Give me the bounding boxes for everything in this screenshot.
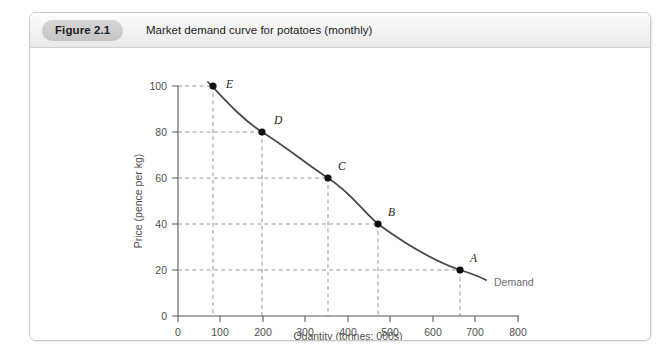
point-label-a: A [469, 252, 478, 264]
point-label-b: B [388, 206, 395, 218]
chart-area: 100 80 60 40 20 0 0 100 200 300 400 500 … [30, 49, 650, 341]
figure-header: Figure 2.1 Market demand curve for potat… [30, 13, 650, 48]
vertical-gridlines [213, 86, 460, 316]
demand-curve-path [208, 82, 486, 280]
x-tick-label-600: 600 [424, 326, 442, 338]
y-tick-label-80: 80 [155, 126, 167, 138]
data-point-d [258, 128, 265, 135]
y-tick-label-20: 20 [155, 264, 167, 276]
x-tick-label-0: 0 [175, 326, 181, 338]
y-tick-label-60: 60 [155, 172, 167, 184]
point-label-c: C [338, 160, 346, 172]
y-tick-label-40: 40 [155, 218, 167, 230]
data-point-c [324, 174, 331, 181]
demand-curve-chart: 100 80 60 40 20 0 0 100 200 300 400 500 … [30, 49, 650, 341]
y-tick-label-100: 100 [149, 80, 167, 92]
demand-curve-label: Demand [494, 276, 534, 288]
x-tick-label-100: 100 [211, 326, 229, 338]
y-axis-title: Price (pence per kg) [132, 154, 144, 249]
y-tick-label-0: 0 [161, 310, 167, 322]
horizontal-gridlines [178, 86, 460, 270]
x-tick-label-700: 700 [466, 326, 484, 338]
point-label-d: D [273, 114, 283, 126]
y-axis-ticks [172, 86, 178, 316]
data-point-e [209, 82, 216, 89]
x-tick-label-800: 800 [509, 326, 527, 338]
x-axis-title: Quantity (tonnes: 000s) [293, 330, 402, 341]
data-point-a [456, 266, 463, 273]
x-axis-ticks [178, 316, 518, 322]
data-point-b [374, 220, 381, 227]
x-tick-label-200: 200 [254, 326, 272, 338]
point-label-e: E [225, 78, 233, 90]
figure-number-badge: Figure 2.1 [42, 20, 123, 41]
figure-caption: Market demand curve for potatoes (monthl… [146, 20, 372, 41]
figure-container: Figure 2.1 Market demand curve for potat… [29, 12, 651, 341]
